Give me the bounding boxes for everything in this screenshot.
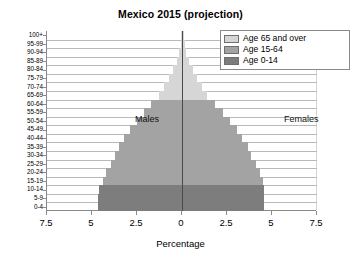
- y-axis-label-0-4: 0-4: [3, 204, 43, 210]
- y-axis-label-50-54: 50-54: [3, 118, 43, 124]
- y-axis-label-100+: 100+: [3, 32, 43, 38]
- bar-male-45-49: [130, 125, 182, 134]
- bar-male-15-19: [103, 177, 182, 186]
- y-axis-tick: [43, 70, 46, 71]
- y-axis-label-95-99: 95-99: [3, 41, 43, 47]
- bar-female-100+: [183, 31, 184, 40]
- bar-male-80-84: [173, 65, 182, 74]
- chart-title: Mexico 2015 (projection): [0, 8, 361, 20]
- x-axis-tick: [316, 211, 317, 215]
- y-axis-tick: [43, 95, 46, 96]
- y-axis-label-70-74: 70-74: [3, 84, 43, 90]
- y-axis-label-45-49: 45-49: [3, 126, 43, 132]
- y-axis-label-20-24: 20-24: [3, 169, 43, 175]
- bar-male-35-39: [119, 142, 182, 151]
- annotation-females: Females: [284, 114, 319, 124]
- bar-female-65-69: [183, 91, 207, 100]
- y-axis-tick: [43, 155, 46, 156]
- y-axis-label-75-79: 75-79: [3, 75, 43, 81]
- legend-label-age-65-and-over: Age 65 and over: [243, 34, 306, 43]
- bar-male-65-69: [159, 91, 182, 100]
- bar-female-25-29: [183, 160, 256, 169]
- legend-swatch-age-65-and-over: [224, 35, 239, 43]
- bar-female-40-44: [183, 134, 242, 143]
- x-axis-tick: [181, 211, 182, 215]
- y-axis-tick: [43, 198, 46, 199]
- y-axis-label-60-64: 60-64: [3, 101, 43, 107]
- legend-swatch-age-0-14: [224, 57, 239, 65]
- legend-swatch-age-15-64: [224, 46, 239, 54]
- y-axis-tick: [43, 130, 46, 131]
- annotation-males: Males: [135, 114, 159, 124]
- y-axis-tick: [43, 172, 46, 173]
- chart-legend: Age 65 and over Age 15-64 Age 0-14: [220, 30, 350, 70]
- legend-item: Age 0-14: [224, 56, 346, 67]
- legend-label-age-0-14: Age 0-14: [243, 56, 278, 65]
- x-axis-label-4: 2.5: [206, 217, 246, 228]
- bar-male-0-4: [98, 202, 182, 211]
- y-axis-label-55-59: 55-59: [3, 109, 43, 115]
- bar-female-10-14: [183, 185, 264, 194]
- bar-male-10-14: [99, 185, 182, 194]
- y-axis-label-80-84: 80-84: [3, 66, 43, 72]
- bar-female-85-89: [183, 57, 189, 66]
- bar-female-60-64: [183, 100, 215, 109]
- x-axis-tick: [46, 211, 47, 215]
- y-axis-tick: [43, 78, 46, 79]
- y-axis-tick: [43, 61, 46, 62]
- bar-female-75-79: [183, 74, 197, 83]
- x-axis-tick: [271, 211, 272, 215]
- y-axis-label-65-69: 65-69: [3, 92, 43, 98]
- bar-male-25-29: [111, 160, 182, 169]
- y-axis-tick: [43, 138, 46, 139]
- bar-female-0-4: [183, 202, 264, 211]
- x-axis-label-5: 5: [251, 217, 291, 228]
- y-axis-tick: [43, 181, 46, 182]
- bar-female-35-39: [183, 142, 248, 151]
- bar-male-20-24: [106, 168, 182, 177]
- y-axis-label-35-39: 35-39: [3, 144, 43, 150]
- bar-female-50-54: [183, 117, 230, 126]
- bar-male-70-74: [164, 82, 182, 91]
- y-axis-label-40-44: 40-44: [3, 135, 43, 141]
- bar-female-15-19: [183, 177, 263, 186]
- x-axis-label-3: 0: [161, 217, 201, 228]
- legend-item: Age 15-64: [224, 45, 346, 56]
- x-axis-label-2: 2.5: [116, 217, 156, 228]
- center-axis-line: [182, 31, 183, 211]
- x-axis-label-1: 5: [71, 217, 111, 228]
- bar-female-5-9: [183, 194, 264, 203]
- bar-female-70-74: [183, 82, 202, 91]
- y-axis-tick: [43, 121, 46, 122]
- x-axis-title: Percentage: [0, 238, 361, 249]
- x-axis-tick: [226, 211, 227, 215]
- bar-female-20-24: [183, 168, 260, 177]
- y-axis-label-5-9: 5-9: [3, 195, 43, 201]
- y-axis-tick: [43, 87, 46, 88]
- bar-male-30-34: [115, 151, 182, 160]
- bar-male-60-64: [151, 100, 182, 109]
- y-axis-tick: [43, 44, 46, 45]
- y-axis-tick: [43, 112, 46, 113]
- y-axis-label-15-19: 15-19: [3, 178, 43, 184]
- y-axis-label-30-34: 30-34: [3, 152, 43, 158]
- bar-female-45-49: [183, 125, 237, 134]
- y-axis-tick: [43, 164, 46, 165]
- bar-female-55-59: [183, 108, 223, 117]
- y-axis-label-25-29: 25-29: [3, 161, 43, 167]
- bar-female-80-84: [183, 65, 193, 74]
- y-axis-tick: [43, 190, 46, 191]
- bar-male-5-9: [98, 194, 182, 203]
- y-axis-label-10-14: 10-14: [3, 186, 43, 192]
- y-axis-tick: [43, 207, 46, 208]
- y-axis-tick: [43, 104, 46, 105]
- x-axis-tick: [136, 211, 137, 215]
- legend-item: Age 65 and over: [224, 34, 346, 45]
- bar-female-95-99: [183, 40, 185, 49]
- x-axis-label-0: 7.5: [26, 217, 66, 228]
- bar-male-40-44: [124, 134, 182, 143]
- bar-female-30-34: [183, 151, 251, 160]
- bar-female-90-94: [183, 48, 186, 57]
- y-axis-label-85-89: 85-89: [3, 58, 43, 64]
- legend-label-age-15-64: Age 15-64: [243, 45, 283, 54]
